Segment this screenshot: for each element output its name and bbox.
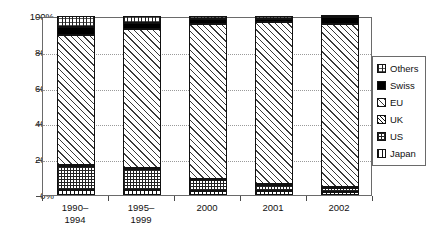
bar-segment-japan[interactable] [255, 191, 293, 195]
legend-item-swiss[interactable]: Swiss [377, 77, 422, 94]
bar-segment-others[interactable] [189, 16, 227, 19]
bar-segment-us[interactable] [57, 166, 95, 189]
x-tick-label: 1995–1999 [104, 202, 178, 225]
x-tick-label: 2001 [236, 202, 310, 214]
legend-item-us[interactable]: US [377, 128, 422, 145]
x-tick-mark [42, 196, 43, 201]
x-tick-label-line: 1995– [104, 202, 178, 214]
bar-2002[interactable] [321, 16, 359, 195]
bar-segment-japan[interactable] [123, 190, 161, 195]
eu-swatch-icon [377, 98, 386, 107]
x-tick-mark [108, 196, 109, 201]
us-swatch-icon [377, 132, 386, 141]
bar-segment-eu[interactable] [57, 35, 95, 166]
bar-2001[interactable] [255, 16, 293, 195]
legend-label: Japan [390, 149, 416, 159]
stacked-bar-chart-figure: 0%20%40%60%80%100% 1990–19941995–1999200… [0, 0, 430, 248]
chart-legend: OthersSwissEUUKUSJapan [372, 56, 426, 166]
bar-segment-us[interactable] [255, 185, 293, 191]
swiss-swatch-icon [377, 81, 386, 90]
legend-label: Swiss [390, 81, 415, 91]
bar-segment-eu[interactable] [255, 22, 293, 184]
uk-swatch-icon [377, 115, 386, 124]
x-tick-label-line: 2000 [170, 202, 244, 214]
bar-2000[interactable] [189, 16, 227, 195]
bar-segment-swiss[interactable] [123, 23, 161, 29]
bar-segment-others[interactable] [321, 15, 359, 17]
legend-item-eu[interactable]: EU [377, 94, 422, 111]
bar-segment-swiss[interactable] [189, 19, 227, 24]
bar-segment-us[interactable] [189, 180, 227, 192]
bar-segment-japan[interactable] [321, 192, 359, 195]
bar-segment-japan[interactable] [57, 190, 95, 195]
legend-item-others[interactable]: Others [377, 60, 422, 77]
bar-segment-eu[interactable] [321, 24, 359, 187]
bar-segment-others[interactable] [57, 16, 95, 27]
x-tick-mark [372, 196, 373, 201]
bar-segment-swiss[interactable] [255, 19, 293, 23]
x-tick-mark [174, 196, 175, 201]
x-tick-mark [306, 196, 307, 201]
x-tick-label: 2000 [170, 202, 244, 214]
bar-segment-eu[interactable] [123, 29, 161, 168]
x-tick-label-line: 2002 [302, 202, 376, 214]
legend-item-japan[interactable]: Japan [377, 145, 422, 162]
bar-segment-eu[interactable] [189, 24, 227, 179]
bar-segment-swiss[interactable] [321, 17, 359, 24]
x-tick-label-line: 1990– [38, 202, 112, 214]
x-tick-mark [240, 196, 241, 201]
x-tick-label-line: 1999 [104, 214, 178, 226]
bar-segment-us[interactable] [321, 188, 359, 192]
bar-segment-japan[interactable] [189, 191, 227, 195]
bar-segment-others[interactable] [255, 16, 293, 19]
legend-label: EU [390, 98, 403, 108]
legend-label: Others [390, 64, 419, 74]
bar-1995–1999[interactable] [123, 16, 161, 195]
bar-segment-swiss[interactable] [57, 27, 95, 35]
bar-segment-others[interactable] [123, 16, 161, 23]
legend-label: UK [390, 115, 403, 125]
bar-1990–1994[interactable] [57, 16, 95, 195]
x-tick-label-line: 2001 [236, 202, 310, 214]
others-swatch-icon [377, 64, 386, 73]
legend-label: US [390, 132, 403, 142]
x-tick-label-line: 1994 [38, 214, 112, 226]
x-tick-label: 1990–1994 [38, 202, 112, 225]
legend-item-uk[interactable]: UK [377, 111, 422, 128]
x-tick-label: 2002 [302, 202, 376, 214]
plot-area [42, 17, 372, 196]
bar-segment-us[interactable] [123, 169, 161, 190]
japan-swatch-icon [377, 149, 386, 158]
